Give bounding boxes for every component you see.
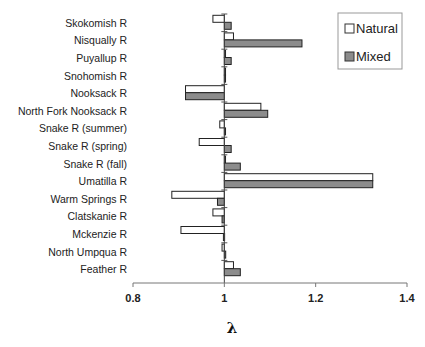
category-label: Snohomish R	[64, 70, 127, 82]
bar-natural	[186, 86, 225, 93]
bar-mixed	[224, 40, 302, 47]
category-label: Snake R (summer)	[39, 122, 127, 134]
bar-natural	[224, 262, 233, 269]
bar-mixed	[224, 269, 240, 276]
x-tick-label: 1.2	[308, 292, 323, 304]
bar-mixed	[186, 93, 225, 100]
category-label: Feather R	[80, 263, 127, 275]
legend: NaturalMixed	[338, 13, 402, 69]
bar-natural	[181, 227, 224, 234]
legend-swatch-mixed	[345, 52, 354, 61]
bar-mixed	[224, 58, 231, 65]
bar-mixed	[224, 22, 231, 29]
category-label: Nooksack R	[70, 87, 127, 99]
category-label: Skokomish R	[65, 17, 127, 29]
category-label: Nisqually R	[74, 34, 128, 46]
bar-mixed	[224, 110, 267, 117]
category-label: Snake R (fall)	[63, 158, 127, 170]
bar-chart: Skokomish RNisqually RPuyallup RSnohomis…	[0, 0, 425, 347]
x-tick-label: 0.8	[125, 292, 140, 304]
legend-swatch-natural	[345, 24, 354, 33]
bar-natural	[220, 121, 225, 128]
category-label: North Fork Nooksack R	[18, 105, 128, 117]
category-label: Snake R (spring)	[48, 140, 127, 152]
bar-natural	[224, 103, 261, 110]
category-label: Mckenzie R	[72, 228, 127, 240]
bar-natural	[213, 15, 224, 22]
bar-natural	[199, 139, 224, 146]
bar-natural	[224, 33, 233, 40]
legend-label: Mixed	[356, 49, 391, 64]
x-axis-label: λ	[227, 319, 238, 337]
bar-mixed	[217, 198, 224, 205]
bar-mixed	[224, 163, 240, 170]
bar-mixed	[224, 146, 231, 153]
x-tick-label: 1	[221, 292, 227, 304]
bar-natural	[213, 209, 224, 216]
category-labels: Skokomish RNisqually RPuyallup RSnohomis…	[18, 17, 128, 275]
category-label: Warm Springs R	[50, 193, 127, 205]
category-label: North Umpqua R	[48, 246, 127, 258]
category-label: Umatilla R	[79, 175, 128, 187]
legend-label: Natural	[356, 21, 398, 36]
bar-mixed	[224, 181, 372, 188]
x-tick-label: 1.4	[399, 292, 415, 304]
bar-natural	[172, 191, 225, 198]
bar-natural	[224, 174, 372, 181]
category-label: Clatskanie R	[67, 210, 127, 222]
category-label: Puyallup R	[76, 52, 127, 64]
